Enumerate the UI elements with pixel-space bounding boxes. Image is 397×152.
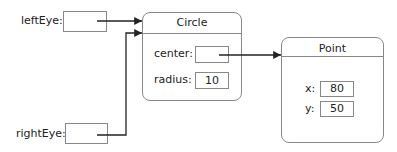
point-x-label: x: — [305, 82, 315, 96]
point-x-box: 80 — [320, 81, 354, 97]
point-header-divider — [282, 56, 383, 57]
leftEye-label: leftEye: — [21, 14, 63, 28]
point-y-box: 50 — [320, 101, 354, 117]
circle-radius-label: radius: — [154, 73, 192, 87]
circle-center-label: center: — [154, 47, 193, 61]
rightEye-label: rightEye: — [16, 127, 66, 141]
rightEye-arrow — [97, 33, 142, 135]
rightEye-box — [65, 123, 108, 144]
circle-radius-box: 10 — [195, 72, 229, 89]
point-y-label: y: — [305, 102, 314, 116]
leftEye-box — [63, 11, 107, 32]
circle-title: Circle — [143, 16, 241, 29]
circle-center-box — [195, 46, 229, 63]
circle-header-divider — [143, 33, 241, 34]
point-title: Point — [282, 42, 383, 55]
